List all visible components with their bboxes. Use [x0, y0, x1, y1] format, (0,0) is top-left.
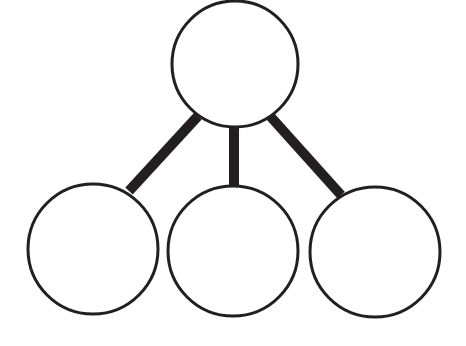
connector-child-left	[129, 116, 198, 191]
root-node	[172, 1, 298, 127]
connector-child-right	[270, 116, 341, 195]
child-right-node	[310, 187, 440, 317]
child-middle-node	[168, 186, 298, 316]
child-left-node	[28, 184, 158, 314]
tree-diagram	[0, 0, 466, 346]
